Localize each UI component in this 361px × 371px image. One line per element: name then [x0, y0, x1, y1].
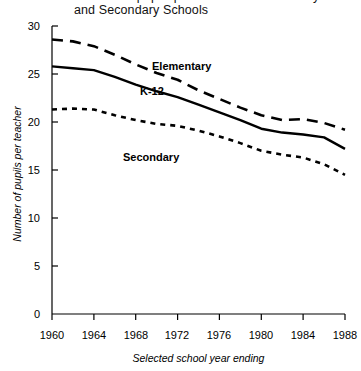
x-axis-ticks — [52, 314, 345, 320]
plot-area — [0, 0, 361, 371]
y-axis-ticks — [52, 26, 58, 266]
series-line-k12 — [52, 66, 345, 149]
series-line-secondary — [52, 109, 345, 175]
chart-figure: Number of pupils per teacher in Elementa… — [0, 0, 361, 371]
series-line-elementary — [52, 39, 345, 129]
